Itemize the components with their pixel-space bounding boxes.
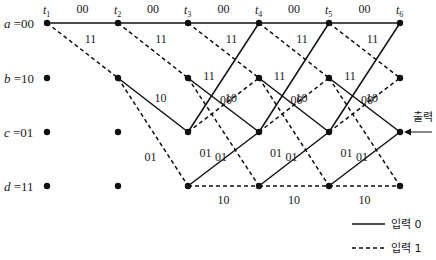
time-label-t4: t4 — [255, 3, 262, 19]
legend-solid-label: 입력 0 — [391, 218, 422, 231]
state-labels: a =00b =10c =01d =11 — [4, 16, 34, 194]
edge-a-b-t3 — [188, 23, 259, 78]
state-label-a: a =00 — [4, 16, 34, 31]
state-label-d: d =11 — [4, 179, 34, 194]
node-c-t1 — [44, 129, 50, 135]
edge-a-b-t2 — [118, 23, 188, 78]
edge-label-d-d-t3: 10 — [218, 193, 230, 207]
state-label-b: b =10 — [4, 71, 34, 86]
state-label-c: c =01 — [4, 125, 33, 140]
node-a-t4 — [256, 20, 262, 26]
node-c-t3 — [185, 129, 191, 135]
edge-label-b-d-t5: 01 — [356, 150, 368, 164]
edge-label-a-a-t3: 00 — [218, 2, 230, 16]
edge-c-a-t3 — [188, 23, 259, 132]
node-d-t2 — [115, 183, 121, 189]
legend-dashed-label: 입력 1 — [391, 242, 422, 255]
node-a-t6 — [397, 20, 403, 26]
node-b-t4 — [256, 75, 262, 81]
edge-label-b-d-t4: 01 — [286, 150, 298, 164]
edge-a-b-t1 — [47, 23, 118, 78]
time-label-t5: t5 — [325, 3, 332, 19]
node-a-t5 — [326, 20, 332, 26]
edge-label-d-c-t3: 01 — [200, 146, 212, 160]
node-b-t2 — [115, 75, 121, 81]
node-c-t4 — [256, 129, 262, 135]
edge-label-a-a-t5: 00 — [359, 2, 371, 16]
edge-label-a-b-t2: 11 — [155, 32, 167, 46]
edge-label-d-c-t4: 01 — [270, 146, 282, 160]
edge-label-a-b-t5: 11 — [367, 32, 379, 46]
output-annotation: 출력 — [404, 111, 433, 136]
edge-a-b-t4 — [259, 23, 329, 78]
edge-label-b-d-t2: 01 — [145, 150, 157, 164]
edge-label-a-a-t1: 00 — [77, 2, 89, 16]
node-b-t1 — [44, 75, 50, 81]
node-c-t6 — [397, 129, 403, 135]
node-d-t5 — [326, 183, 332, 189]
edge-b-d-t2 — [118, 78, 188, 186]
node-b-t5 — [326, 75, 332, 81]
edge-label-a-b-t3: 11 — [226, 32, 238, 46]
node-a-t3 — [185, 20, 191, 26]
node-a-t1 — [44, 20, 50, 26]
edge-b-c-t2 — [118, 78, 188, 132]
edge-label-c-b-t5: 00 — [361, 93, 373, 107]
edge-label-c-b-t3: 00 — [220, 93, 232, 107]
node-b-t3 — [185, 75, 191, 81]
edge-label-c-a-t5: 11 — [344, 69, 356, 83]
time-label-t6: t6 — [396, 3, 403, 19]
edge-a-b-t5 — [329, 23, 400, 78]
edge-c-a-t4 — [259, 23, 329, 132]
output-arrow-head — [404, 129, 411, 136]
edge-c-a-t5 — [329, 23, 400, 132]
node-a-t2 — [115, 20, 121, 26]
edge-label-c-a-t4: 11 — [274, 69, 286, 83]
edge-label-b-d-t3: 01 — [215, 150, 227, 164]
edge-label-c-a-t3: 11 — [203, 69, 215, 83]
node-d-t3 — [185, 183, 191, 189]
edge-label-b-c-t2: 10 — [155, 91, 167, 105]
trellis-diagram: 0011001110010011100111000110001110011100… — [0, 0, 436, 260]
node-b-t6 — [397, 75, 403, 81]
time-label-t2: t2 — [114, 3, 121, 19]
edge-label-d-c-t5: 01 — [341, 146, 353, 160]
time-label-t3: t3 — [184, 3, 191, 19]
legend: 입력 0 입력 1 — [352, 218, 422, 255]
edge-label-a-b-t1: 11 — [85, 32, 97, 46]
node-d-t4 — [256, 183, 262, 189]
output-label: 출력 — [413, 111, 433, 124]
time-label-t1: t1 — [43, 3, 50, 19]
edge-label-c-b-t4: 00 — [291, 93, 303, 107]
edge-label-d-d-t5: 10 — [359, 193, 371, 207]
edge-labels: 0011001110010011100111000110001110011100… — [77, 2, 379, 207]
edge-label-a-b-t4: 11 — [296, 32, 308, 46]
node-d-t1 — [44, 183, 50, 189]
node-c-t5 — [326, 129, 332, 135]
edge-label-a-a-t2: 00 — [147, 2, 159, 16]
edge-label-a-a-t4: 00 — [288, 2, 300, 16]
node-d-t6 — [397, 183, 403, 189]
node-c-t2 — [115, 129, 121, 135]
edge-label-d-d-t4: 10 — [288, 193, 300, 207]
